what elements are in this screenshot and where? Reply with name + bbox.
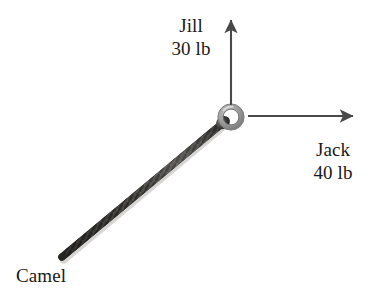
camel-rope (57, 113, 232, 262)
jill-label-name: Jill (160, 14, 222, 37)
jack-label-force: 40 lb (300, 161, 366, 184)
camel-label-name: Camel (16, 264, 94, 287)
jack-label-name: Jack (300, 138, 366, 161)
jill-label-force: 30 lb (160, 37, 222, 60)
ring (218, 104, 244, 130)
jill-label: Jill 30 lb (160, 14, 222, 60)
force-diagram: Jill 30 lb Jack 40 lb Camel (0, 0, 373, 304)
camel-label: Camel (16, 264, 94, 287)
rope-edge (62, 122, 224, 257)
jack-label: Jack 40 lb (300, 138, 366, 184)
